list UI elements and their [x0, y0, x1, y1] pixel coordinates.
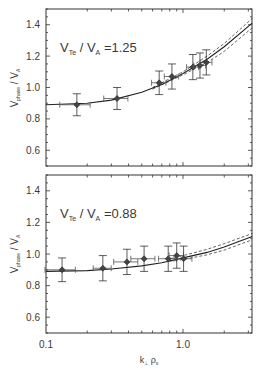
data-point — [187, 55, 199, 80]
data-point — [45, 258, 75, 282]
data-point — [60, 94, 90, 116]
y-tick-label: 0.6 — [26, 145, 40, 156]
x-tick-label-0.1: 0.1 — [39, 339, 53, 350]
bottom-annotation: VTe / VA =0.88 — [60, 206, 137, 222]
diamond-marker-icon — [141, 256, 147, 262]
bottom-panel: 0.60.81.01.21.4 — [26, 175, 252, 333]
theory-curve — [46, 23, 252, 105]
y-tick-label: 1.0 — [26, 249, 40, 260]
data-point — [169, 243, 183, 268]
data-point — [152, 71, 166, 95]
data-point — [164, 64, 178, 89]
y-tick-label: 0.8 — [26, 280, 40, 291]
y-tick-label: 1.2 — [26, 51, 40, 62]
diamond-marker-icon — [114, 95, 120, 101]
data-point — [114, 249, 138, 274]
figure: 0.60.81.01.21.4 0.60.81.01.21.4 VTe / VA… — [0, 0, 268, 378]
diamond-marker-icon — [74, 102, 80, 108]
diamond-marker-icon — [59, 267, 65, 273]
bottom-y-axis-label: Vphase / VA — [9, 234, 21, 273]
plot-frame — [46, 175, 252, 333]
y-tick-label: 1.2 — [26, 217, 40, 228]
y-tick-label: 1.4 — [26, 185, 40, 196]
y-tick-label: 1.0 — [26, 82, 40, 93]
data-point — [104, 88, 128, 110]
top-panel: 0.60.81.01.21.4 — [26, 9, 252, 166]
data-point — [131, 246, 155, 271]
data-point — [93, 256, 111, 281]
top-annotation: VTe / VA =1.25 — [60, 40, 137, 56]
plot-frame — [46, 9, 252, 166]
y-tick-label: 0.8 — [26, 113, 40, 124]
diamond-marker-icon — [100, 265, 106, 271]
diamond-marker-icon — [181, 256, 187, 262]
theory-curve — [46, 237, 252, 272]
data-point — [194, 53, 206, 78]
top-y-axis-label: Vphase / VA — [9, 68, 21, 107]
x-axis-label: k⊥ ρs — [140, 355, 159, 366]
y-tick-label: 1.4 — [26, 19, 40, 30]
diamond-marker-icon — [124, 259, 130, 265]
x-tick-label-1.0: 1.0 — [176, 339, 190, 350]
y-tick-label: 0.6 — [26, 312, 40, 323]
